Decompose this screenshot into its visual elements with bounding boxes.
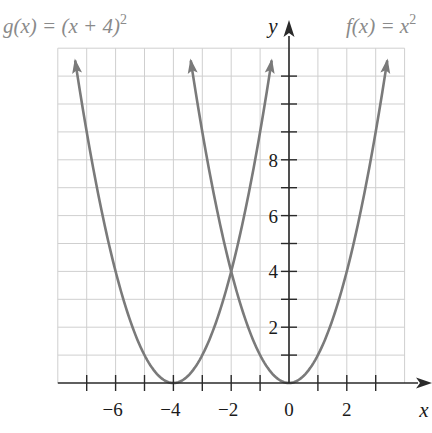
labels: −6−4−2022468xyg(x) = (x + 4)2f(x) = x2	[3, 12, 429, 422]
y-tick-label: 8	[269, 150, 279, 171]
x-tick-label: −4	[160, 399, 181, 420]
graph: −6−4−2022468xyg(x) = (x + 4)2f(x) = x2	[0, 0, 432, 433]
x-axis-arrow-icon	[416, 378, 432, 389]
y-axis-label: y	[266, 14, 278, 38]
g-function-label: g(x) = (x + 4)2	[3, 12, 127, 38]
grid-lines	[58, 48, 405, 383]
x-tick-label: 2	[342, 399, 352, 420]
y-tick-label: 4	[269, 261, 279, 282]
x-tick-label: −2	[218, 399, 238, 420]
exponent: 2	[120, 12, 127, 27]
f-function-label: f(x) = x2	[346, 12, 416, 38]
y-tick-label: 6	[269, 206, 279, 227]
x-axis-label: x	[418, 398, 429, 422]
exponent: 2	[409, 12, 416, 27]
y-axis-arrow-icon	[284, 20, 295, 37]
y-tick-label: 2	[269, 317, 279, 338]
x-tick-label: −6	[102, 399, 122, 420]
x-tick-label: 0	[284, 399, 294, 420]
